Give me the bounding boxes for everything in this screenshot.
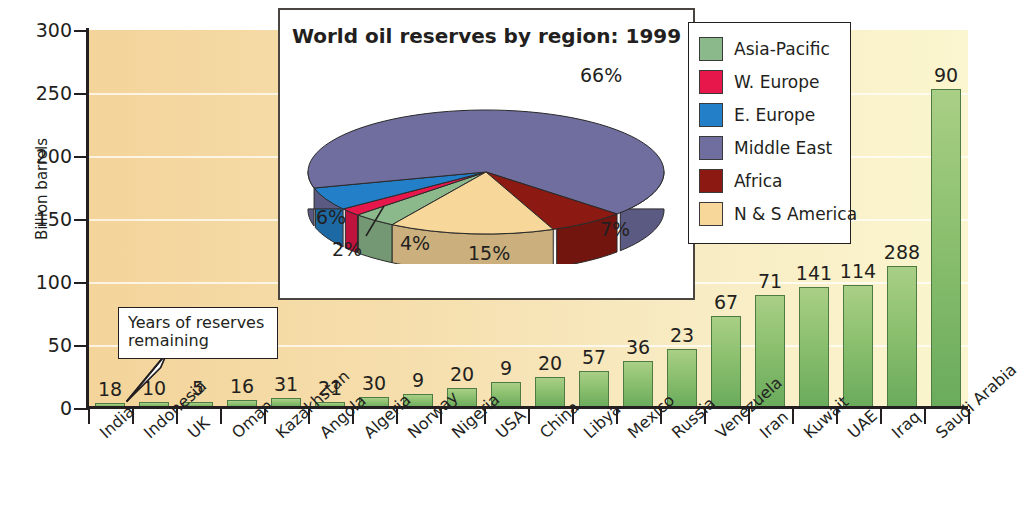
- legend-item: Africa: [699, 164, 850, 197]
- x-axis-tick: [132, 409, 134, 424]
- x-axis-tick: [308, 409, 310, 424]
- x-axis-label: USA: [492, 406, 529, 442]
- legend-item-label: Middle East: [734, 138, 832, 158]
- legend-item-label: E. Europe: [734, 105, 815, 125]
- bar-data-label: 20: [528, 352, 572, 374]
- bar-data-label: 57: [572, 346, 616, 368]
- x-axis-tick: [440, 409, 442, 424]
- bar-data-label: 90: [924, 64, 968, 86]
- x-axis-tick: [836, 409, 838, 424]
- x-axis-label: Iran: [756, 407, 792, 442]
- bar: [579, 371, 608, 408]
- x-axis-tick: [220, 409, 222, 424]
- legend-color-swatch: [699, 202, 723, 226]
- y-axis-tick-label: 300: [0, 19, 72, 41]
- x-axis-tick: [528, 409, 530, 424]
- x-axis-tick: [572, 409, 574, 424]
- legend-color-swatch: [699, 136, 723, 160]
- callout-line-1: Years of reserves: [128, 314, 269, 332]
- inset-title: World oil reserves by region: 1999: [280, 24, 693, 48]
- x-axis-tick: [748, 409, 750, 424]
- x-axis-tick: [616, 409, 618, 424]
- pie-percent-label: 66%: [580, 64, 622, 86]
- x-axis-tick: [880, 409, 882, 424]
- x-axis-tick: [352, 409, 354, 424]
- bar-data-label: 141: [792, 262, 836, 284]
- bar-data-label: 9: [484, 357, 528, 379]
- y-axis-tick: [74, 30, 87, 32]
- bar-data-label: 36: [616, 336, 660, 358]
- y-axis-tick: [74, 408, 87, 410]
- y-axis-tick-label: 0: [0, 397, 72, 419]
- bar-data-label: 31: [264, 373, 308, 395]
- bar: [711, 316, 740, 408]
- x-axis-tick: [396, 409, 398, 424]
- x-axis-tick: [484, 409, 486, 424]
- pie-percent-label: 6%: [316, 206, 346, 228]
- pie-percent-label: 4%: [400, 232, 430, 254]
- pie-percent-label: 7%: [600, 218, 630, 240]
- legend-color-swatch: [699, 169, 723, 193]
- x-axis-tick: [924, 409, 926, 424]
- bar-data-label: 288: [880, 241, 924, 263]
- bar-data-label: 20: [440, 363, 484, 385]
- y-axis-tick: [74, 282, 87, 284]
- legend-item-label: Asia-Pacific: [734, 39, 830, 59]
- y-axis-tick: [74, 156, 87, 158]
- legend-color-swatch: [699, 103, 723, 127]
- legend-item-label: W. Europe: [734, 72, 819, 92]
- callout-line-2: remaining: [128, 332, 269, 350]
- x-axis-tick: [264, 409, 266, 424]
- bar: [931, 89, 960, 408]
- bar: [799, 287, 828, 408]
- legend-color-swatch: [699, 37, 723, 61]
- legend-item-label: Africa: [734, 171, 783, 191]
- legend-item-label: N & S America: [734, 204, 857, 224]
- x-axis-label: UK: [184, 413, 213, 442]
- bar-data-label: 23: [660, 324, 704, 346]
- bar: [887, 266, 916, 408]
- y-axis-tick-label: 250: [0, 82, 72, 104]
- y-axis-tick: [74, 219, 87, 221]
- bar-data-label: 18: [88, 378, 132, 400]
- bar-data-label: 114: [836, 260, 880, 282]
- legend-item: E. Europe: [699, 98, 850, 131]
- x-axis-tick: [88, 409, 90, 424]
- legend-item: Asia-Pacific: [699, 32, 850, 65]
- y-axis-tick-label: 100: [0, 271, 72, 293]
- bar: [535, 377, 564, 409]
- y-axis-title: Billion barrels: [33, 109, 51, 269]
- bar-data-label: 71: [748, 270, 792, 292]
- pie-top-faces: [308, 110, 664, 234]
- pie-percent-label: 15%: [468, 242, 510, 264]
- x-axis-label: Iraq: [888, 407, 924, 442]
- bar-data-label: 30: [352, 372, 396, 394]
- bar-data-label: 10: [132, 377, 176, 399]
- bar-data-label: 67: [704, 291, 748, 313]
- x-axis-tick: [792, 409, 794, 424]
- legend-color-swatch: [699, 70, 723, 94]
- pie-percent-label: 2%: [332, 238, 362, 260]
- y-axis-tick: [74, 345, 87, 347]
- legend-item: W. Europe: [699, 65, 850, 98]
- legend-item: N & S America: [699, 197, 850, 230]
- x-axis-tick: [968, 409, 970, 424]
- inset-pie-panel: World oil reserves by region: 1999 4%2%6…: [278, 8, 695, 300]
- bar: [623, 361, 652, 408]
- y-axis-tick: [74, 93, 87, 95]
- callout-box: Years of reserves remaining: [118, 307, 278, 359]
- y-axis-tick-label: 50: [0, 334, 72, 356]
- x-axis-tick: [704, 409, 706, 424]
- bar-data-label: 16: [220, 375, 264, 397]
- x-axis-tick: [660, 409, 662, 424]
- x-axis-tick: [176, 409, 178, 424]
- bar-data-label: 9: [396, 369, 440, 391]
- legend: Asia-PacificW. EuropeE. EuropeMiddle Eas…: [688, 22, 851, 244]
- legend-item: Middle East: [699, 131, 850, 164]
- x-axis-label: UAE: [844, 406, 881, 442]
- bar: [843, 285, 872, 408]
